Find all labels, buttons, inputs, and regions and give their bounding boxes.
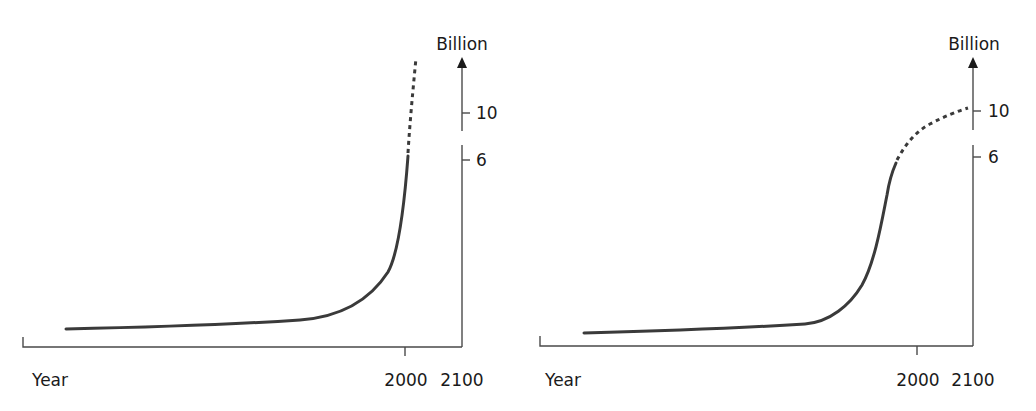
right-y-axis-arrow-icon <box>968 57 978 68</box>
right-projection-curve <box>897 108 968 160</box>
left-y-axis-arrow-icon <box>457 57 467 68</box>
right-historical-curve <box>584 163 896 333</box>
right-chart: Billion 10 6 Year 2000 2100 <box>540 34 1010 390</box>
right-x-tick-label-2100: 2100 <box>951 370 994 390</box>
left-projection-curve <box>408 58 416 153</box>
right-y-tick-label-6: 6 <box>988 147 999 167</box>
right-x-tick-label-2000: 2000 <box>896 370 939 390</box>
left-chart: Billion 10 6 Year 2000 2100 <box>23 34 498 390</box>
left-x-axis-label: Year <box>31 370 68 390</box>
right-y-axis-label: Billion <box>948 34 1000 54</box>
left-x-tick-label-2000: 2000 <box>384 370 427 390</box>
right-x-axis-label: Year <box>544 370 581 390</box>
left-y-tick-label-6: 6 <box>476 150 487 170</box>
right-x-axis <box>540 336 973 346</box>
right-y-tick-label-10: 10 <box>988 101 1010 121</box>
left-x-tick-label-2100: 2100 <box>440 370 483 390</box>
left-y-tick-label-10: 10 <box>476 103 498 123</box>
left-historical-curve <box>66 156 408 329</box>
population-charts: Billion 10 6 Year 2000 2100 Billion 10 6… <box>0 0 1036 411</box>
left-x-axis <box>23 337 462 347</box>
left-y-axis-label: Billion <box>436 34 488 54</box>
